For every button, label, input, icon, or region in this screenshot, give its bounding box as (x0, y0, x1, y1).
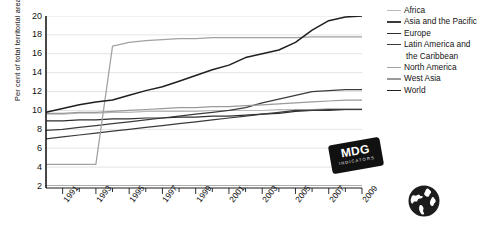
legend-swatch-icon (386, 28, 402, 39)
legend-item[interactable]: Africa (386, 5, 496, 16)
globe-icon (404, 181, 444, 221)
legend-item[interactable]: North America (386, 62, 496, 73)
legend-item[interactable]: West Asia (386, 73, 496, 84)
legend-swatch-icon (386, 73, 402, 84)
legend-item[interactable]: Asia and the Pacific (386, 16, 496, 27)
chart-legend: AfricaAsia and the PacificEuropeLatin Am… (386, 5, 496, 96)
legend-label: Latin America and (404, 39, 470, 50)
legend-label-continuation: the Caribbean (406, 51, 496, 62)
legend-label: World (404, 85, 426, 96)
legend-item[interactable]: Latin America and (386, 39, 496, 50)
legend-label: Europe (404, 28, 431, 39)
chart-container: Per cent of total territorial area 24681… (0, 0, 496, 226)
legend-label: Africa (404, 5, 425, 16)
legend-label: North America (404, 62, 457, 73)
legend-item[interactable]: Europe (386, 28, 496, 39)
legend-swatch-icon (386, 16, 402, 27)
legend-label: West Asia (404, 73, 441, 84)
legend-label: Asia and the Pacific (404, 16, 477, 27)
legend-swatch-icon (386, 85, 402, 96)
legend-swatch-icon (386, 62, 402, 73)
legend-item[interactable]: World (386, 85, 496, 96)
legend-swatch-icon (386, 39, 402, 50)
legend-swatch-icon (386, 5, 402, 16)
